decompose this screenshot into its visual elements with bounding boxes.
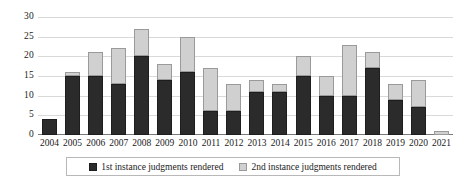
bar-segment-first-instance[interactable] xyxy=(342,96,357,135)
bar-segment-first-instance[interactable] xyxy=(365,68,380,135)
x-tick-label: 2010 xyxy=(176,137,199,151)
bar-group[interactable] xyxy=(411,17,426,135)
bar-group[interactable] xyxy=(342,17,357,135)
y-tick-label: 10 xyxy=(0,91,34,101)
bar-group[interactable] xyxy=(88,17,103,135)
legend-item-label: 1st instance judgments rendered xyxy=(101,162,223,172)
bar-segment-second-instance[interactable] xyxy=(249,80,264,92)
y-tick-label: 5 xyxy=(0,110,34,120)
bar-segment-second-instance[interactable] xyxy=(88,52,103,76)
bar-segment-second-instance[interactable] xyxy=(319,76,334,96)
x-tick-label: 2013 xyxy=(246,137,269,151)
bar-segment-second-instance[interactable] xyxy=(411,80,426,108)
x-tick-label: 2011 xyxy=(199,137,222,151)
bar-group[interactable] xyxy=(388,17,403,135)
x-tick-label: 2021 xyxy=(430,137,453,151)
bar-segment-first-instance[interactable] xyxy=(65,76,80,135)
x-tick-label: 2016 xyxy=(315,137,338,151)
bar-segment-second-instance[interactable] xyxy=(342,45,357,96)
bar-segment-first-instance[interactable] xyxy=(272,92,287,135)
bar-segment-second-instance[interactable] xyxy=(388,84,403,100)
x-tick-label: 2020 xyxy=(407,137,430,151)
bar-group[interactable] xyxy=(134,17,149,135)
x-tick-label: 2007 xyxy=(107,137,130,151)
x-tick-label: 2015 xyxy=(292,137,315,151)
bar-segment-first-instance[interactable] xyxy=(411,107,426,135)
bar-segment-first-instance[interactable] xyxy=(180,72,195,135)
bar-segment-second-instance[interactable] xyxy=(111,48,126,83)
bar-segment-first-instance[interactable] xyxy=(388,100,403,135)
bar-group[interactable] xyxy=(203,17,218,135)
x-tick-label: 2019 xyxy=(384,137,407,151)
bar-segment-second-instance[interactable] xyxy=(296,56,311,76)
bar-segment-first-instance[interactable] xyxy=(42,119,57,135)
x-tick-label: 2012 xyxy=(223,137,246,151)
chart-legend: 1st instance judgments rendered2nd insta… xyxy=(66,157,400,176)
bar-segment-first-instance[interactable] xyxy=(226,111,241,135)
bar-segment-second-instance[interactable] xyxy=(365,52,380,68)
bar-segment-second-instance[interactable] xyxy=(434,131,449,135)
bar-segment-first-instance[interactable] xyxy=(88,76,103,135)
bar-segment-second-instance[interactable] xyxy=(203,68,218,111)
legend-item[interactable]: 2nd instance judgments rendered xyxy=(239,162,376,172)
bar-group[interactable] xyxy=(180,17,195,135)
x-tick-label: 2018 xyxy=(361,137,384,151)
x-tick-label: 2017 xyxy=(338,137,361,151)
bar-segment-second-instance[interactable] xyxy=(157,64,172,80)
legend-item[interactable]: 1st instance judgments rendered xyxy=(89,162,223,172)
y-tick-label: 30 xyxy=(0,12,34,22)
bar-group[interactable] xyxy=(319,17,334,135)
bar-group[interactable] xyxy=(65,17,80,135)
bar-group[interactable] xyxy=(42,17,57,135)
stacked-bar-chart: 051015202530 200420052006200720082009201… xyxy=(0,0,466,183)
x-tick-label: 2009 xyxy=(153,137,176,151)
bar-group[interactable] xyxy=(296,17,311,135)
bar-segment-second-instance[interactable] xyxy=(226,84,241,112)
legend-item-label: 2nd instance judgments rendered xyxy=(251,162,376,172)
y-axis: 051015202530 xyxy=(0,17,34,135)
bar-segment-second-instance[interactable] xyxy=(272,84,287,92)
y-tick-label: 15 xyxy=(0,71,34,81)
bar-group[interactable] xyxy=(434,17,449,135)
dark-square-swatch xyxy=(89,163,97,171)
bar-group[interactable] xyxy=(226,17,241,135)
bar-series-container xyxy=(38,17,453,135)
bar-segment-first-instance[interactable] xyxy=(111,84,126,135)
bar-segment-first-instance[interactable] xyxy=(157,80,172,135)
bar-group[interactable] xyxy=(365,17,380,135)
x-tick-label: 2004 xyxy=(38,137,61,151)
bar-segment-first-instance[interactable] xyxy=(296,76,311,135)
bar-segment-first-instance[interactable] xyxy=(319,96,334,135)
x-tick-label: 2006 xyxy=(84,137,107,151)
bar-group[interactable] xyxy=(157,17,172,135)
x-tick-label: 2008 xyxy=(130,137,153,151)
bar-segment-first-instance[interactable] xyxy=(203,111,218,135)
light-square-swatch xyxy=(239,163,247,171)
x-tick-label: 2014 xyxy=(269,137,292,151)
bar-group[interactable] xyxy=(111,17,126,135)
x-axis: 2004200520062007200820092010201120122013… xyxy=(38,137,453,151)
bar-segment-first-instance[interactable] xyxy=(134,56,149,135)
y-tick-label: 0 xyxy=(0,130,34,140)
bar-segment-first-instance[interactable] xyxy=(249,92,264,135)
y-tick-label: 20 xyxy=(0,51,34,61)
plot-area xyxy=(38,17,453,135)
y-tick-label: 25 xyxy=(0,32,34,42)
bar-segment-second-instance[interactable] xyxy=(180,37,195,72)
bar-segment-second-instance[interactable] xyxy=(134,29,149,57)
bar-group[interactable] xyxy=(272,17,287,135)
x-tick-label: 2005 xyxy=(61,137,84,151)
bar-group[interactable] xyxy=(249,17,264,135)
